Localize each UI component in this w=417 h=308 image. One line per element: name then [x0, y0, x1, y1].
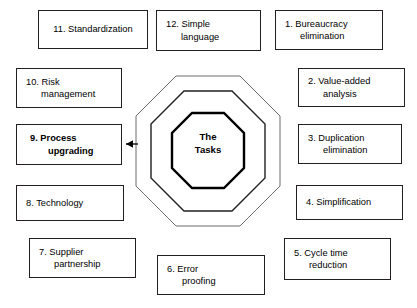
node-value-added-analysis[interactable]: 2. Value-added analysis [298, 68, 405, 107]
node-cycle-time-reduction-line1: 5. Cycle time [285, 247, 390, 259]
node-value-added-analysis-line2: analysis [299, 88, 404, 100]
node-risk-management[interactable]: 10. Risk management [16, 68, 122, 108]
arrow-to-process-upgrading [126, 140, 138, 147]
node-supplier-partnership-line1: 7. Supplier [30, 246, 135, 258]
node-bureaucracy-elimination[interactable]: 1. Bureaucracy elimination [275, 10, 383, 50]
node-process-upgrading-line1: 9. Process [17, 132, 121, 144]
node-simplification[interactable]: 4. Simplification [296, 185, 403, 220]
node-standardization-line1: 11. Standardization [39, 23, 147, 35]
node-supplier-partnership[interactable]: 7. Supplier partnership [29, 238, 136, 278]
node-error-proofing-line2: proofing [158, 275, 264, 287]
node-risk-management-line1: 10. Risk [17, 76, 121, 88]
node-cycle-time-reduction-line2: reduction [285, 259, 390, 271]
diagram-canvas: The Tasks 11. Standardization 12. Simple… [0, 0, 417, 308]
node-duplication-elimination[interactable]: 3. Duplication elimination [298, 124, 402, 164]
node-simple-language-line2: language [157, 31, 260, 43]
node-error-proofing[interactable]: 6. Error proofing [157, 255, 265, 295]
node-duplication-elimination-line2: elimination [299, 144, 401, 156]
node-cycle-time-reduction[interactable]: 5. Cycle time reduction [284, 238, 391, 280]
node-duplication-elimination-line1: 3. Duplication [299, 132, 401, 144]
center-label-line1: The [178, 131, 238, 144]
node-risk-management-line2: management [17, 88, 121, 100]
node-value-added-analysis-line1: 2. Value-added [299, 75, 404, 87]
node-bureaucracy-elimination-line2: elimination [276, 30, 382, 42]
node-bureaucracy-elimination-line1: 1. Bureaucracy [276, 18, 382, 30]
node-simplification-line1: 4. Simplification [297, 196, 402, 208]
node-standardization[interactable]: 11. Standardization [38, 10, 148, 49]
center-label: The Tasks [178, 131, 238, 156]
node-technology-line1: 8. Technology [17, 197, 123, 209]
node-process-upgrading-line2: upgrading [17, 145, 121, 157]
node-simple-language[interactable]: 12. Simple language [156, 10, 261, 51]
center-label-line2: Tasks [178, 144, 238, 157]
node-process-upgrading[interactable]: 9. Process upgrading [16, 124, 122, 165]
node-supplier-partnership-line2: partnership [30, 258, 135, 270]
node-simple-language-line1: 12. Simple [157, 18, 260, 30]
node-technology[interactable]: 8. Technology [16, 185, 124, 221]
node-error-proofing-line1: 6. Error [158, 263, 264, 275]
